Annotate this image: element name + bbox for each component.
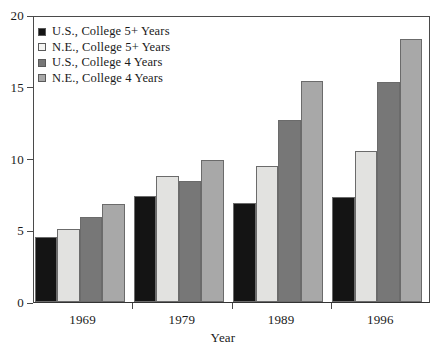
legend-item-label: U.S., College 5+ Years: [52, 24, 170, 40]
bar: [301, 81, 324, 302]
bar: [400, 39, 423, 302]
legend-item-label: U.S., College 4 Years: [52, 55, 162, 71]
bar-group: [233, 17, 332, 302]
bar: [80, 217, 103, 302]
x-axis-separator: [132, 303, 133, 309]
legend-swatch-icon: [38, 59, 46, 67]
legend-item-label: N.E., College 4 Years: [52, 71, 163, 87]
bar: [134, 196, 157, 302]
bar: [179, 181, 202, 302]
x-axis-separator: [331, 303, 332, 309]
x-axis-separator: [232, 303, 233, 309]
bar-group: [332, 17, 431, 302]
legend-item: N.E., College 5+ Years: [38, 40, 170, 56]
bar: [201, 160, 224, 302]
bar: [278, 120, 301, 302]
bar-chart: 05101520 1969197919891996 Year U.S., Col…: [0, 0, 446, 351]
x-axis-label: 1979: [132, 311, 231, 328]
x-axis-label: 1996: [331, 311, 430, 328]
y-tick-label: 5: [17, 222, 24, 239]
bar: [57, 229, 80, 302]
x-axis-title: Year: [0, 330, 446, 346]
y-tick-label: 20: [11, 7, 24, 24]
legend-item: N.E., College 4 Years: [38, 71, 170, 87]
legend-item: U.S., College 5+ Years: [38, 24, 170, 40]
legend-item-label: N.E., College 5+ Years: [52, 40, 170, 56]
x-axis-label: 1969: [33, 311, 132, 328]
bar: [35, 237, 58, 302]
bar: [256, 166, 279, 302]
y-tick-label: 10: [11, 151, 24, 168]
bar: [332, 197, 355, 302]
y-tick-label: 0: [17, 294, 24, 311]
y-axis: 05101520: [0, 16, 33, 303]
legend-swatch-icon: [38, 74, 46, 82]
legend-item: U.S., College 4 Years: [38, 55, 170, 71]
bar: [102, 204, 125, 302]
bar: [156, 176, 179, 302]
y-tick-label: 15: [11, 79, 24, 96]
bar: [355, 151, 378, 302]
legend-swatch-icon: [38, 43, 46, 51]
bar: [233, 203, 256, 302]
chart-legend: U.S., College 5+ YearsN.E., College 5+ Y…: [38, 24, 170, 86]
x-axis-label: 1989: [232, 311, 331, 328]
legend-swatch-icon: [38, 28, 46, 36]
x-axis: 1969197919891996: [33, 303, 430, 329]
bar: [377, 82, 400, 302]
